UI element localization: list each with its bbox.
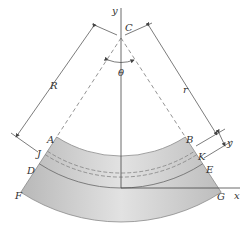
label-r: r (183, 84, 189, 95)
r-dimension-line (149, 26, 217, 135)
label-R: R (49, 80, 58, 91)
label-x-axis: x (234, 190, 240, 201)
label-D: D (26, 165, 35, 176)
curved-beam-diagram: y C θ R r A B J K y D E F G x (0, 0, 247, 231)
extension-line-K (196, 129, 225, 146)
y-offset-dimension (219, 133, 225, 146)
label-E: E (205, 164, 214, 175)
label-center-C: C (125, 22, 133, 33)
label-F: F (14, 190, 23, 201)
label-y-axis: y (111, 5, 118, 16)
label-A: A (46, 134, 54, 145)
radial-dashed-line-left (56, 38, 121, 138)
label-J: J (35, 148, 42, 159)
extension-line-left-top (92, 24, 117, 35)
extension-line-D (11, 133, 38, 152)
label-G: G (217, 191, 225, 202)
radial-dashed-line-right (121, 38, 186, 138)
label-offset-y: y (226, 137, 233, 148)
label-B: B (185, 134, 193, 145)
label-theta: θ (118, 67, 124, 78)
label-K: K (197, 151, 206, 162)
